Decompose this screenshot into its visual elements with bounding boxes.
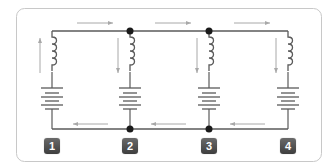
branch-badge-4: 4	[280, 138, 296, 154]
branch-badge-2: 2	[122, 138, 138, 154]
junction-node	[127, 126, 134, 133]
branch-badge-1: 1	[44, 138, 60, 154]
junction-node	[206, 126, 213, 133]
branch-badge-3: 3	[201, 138, 217, 154]
junction-node	[206, 28, 213, 35]
junction-node	[127, 28, 134, 35]
